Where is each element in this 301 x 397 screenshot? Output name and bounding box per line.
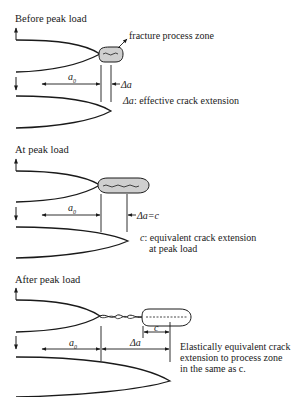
fracture-process-zone <box>99 47 123 62</box>
note-text: : effective crack extension <box>134 95 239 106</box>
panel-title-after: After peak load <box>15 274 80 285</box>
upper-crack-face <box>16 40 100 72</box>
a0-subscript: 0 <box>73 78 76 84</box>
note-line-3: in the same as c. <box>180 363 246 374</box>
upper-crack-face <box>16 171 100 202</box>
panel-title-at: At peak load <box>15 144 69 155</box>
panel-title-before: Before peak load <box>15 13 87 24</box>
upper-crack-face <box>16 300 100 332</box>
c-label: c <box>154 322 158 333</box>
note-line-2: at peak load <box>149 243 197 254</box>
process-zone-leader <box>118 39 127 48</box>
crack-diagram <box>0 0 301 397</box>
delta-a-equals-c-label: Δa=c <box>137 210 159 221</box>
lower-crack-face <box>16 227 128 258</box>
note-line-1: Elastically equivalent crack <box>180 341 291 352</box>
note-symbol: Δa <box>123 95 134 106</box>
note-line-2: extension to process zone <box>180 352 282 363</box>
a0-label: a0 <box>68 71 76 87</box>
lower-crack-face <box>16 357 170 397</box>
equivalent-process-zone <box>142 309 191 326</box>
a0-subscript: 0 <box>74 344 77 350</box>
delta-a-label: Δa <box>130 337 141 348</box>
panel-after-peak <box>16 288 191 397</box>
process-zone-label: fracture process zone <box>129 30 214 41</box>
delta-a-label: Δa <box>121 79 132 90</box>
note-equivalent-extension: c: equivalent crack extension <box>140 232 256 243</box>
fracture-process-zone <box>98 178 149 193</box>
note-line-1: : equivalent crack extension <box>144 232 256 243</box>
a0-label: a0 <box>69 337 77 353</box>
note-effective-extension: Δa: effective crack extension <box>123 95 239 106</box>
panel-at-peak <box>16 159 149 258</box>
lower-crack-face <box>16 96 111 128</box>
a0-label: a0 <box>68 202 76 218</box>
a0-subscript: 0 <box>73 209 76 215</box>
